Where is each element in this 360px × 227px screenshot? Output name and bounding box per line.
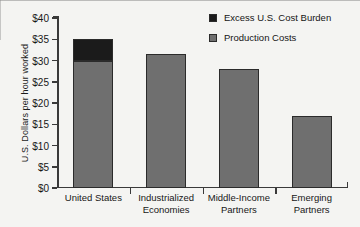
bar-segment[interactable] <box>73 39 113 60</box>
y-axis-tick-label: $20 <box>32 98 49 109</box>
x-axis-category-label: United States <box>57 192 130 204</box>
x-axis-category-label: Middle-IncomePartners <box>203 192 276 215</box>
bar-chart: U.S. Dollars per hour worked $0$5$10$15$… <box>0 0 360 227</box>
x-axis-category-line: Middle-Income <box>203 192 276 204</box>
y-axis-tick-label: $40 <box>32 13 49 24</box>
bar[interactable] <box>73 39 113 188</box>
x-axis-category-label: EmergingPartners <box>275 192 348 215</box>
chart-legend: Excess U.S. Cost BurdenProduction Costs <box>209 12 331 52</box>
x-axis-category-line: Partners <box>203 204 276 216</box>
y-axis-tick-label: $15 <box>32 119 49 130</box>
y-axis-tick-label: $30 <box>32 55 49 66</box>
legend-swatch-icon <box>209 34 217 42</box>
y-axis-tick-label: $5 <box>38 161 49 172</box>
y-axis-tick <box>52 187 57 189</box>
legend-label: Production Costs <box>224 32 296 43</box>
x-axis-category-line: United States <box>57 192 130 204</box>
bar[interactable] <box>146 54 186 188</box>
x-axis-category-line: Partners <box>275 204 348 216</box>
bar[interactable] <box>219 69 259 188</box>
legend-label: Excess U.S. Cost Burden <box>224 12 331 23</box>
legend-swatch-icon <box>209 14 217 22</box>
x-axis-category-line: Industrialized <box>130 192 203 204</box>
y-axis-tick <box>52 124 57 126</box>
y-axis-tick <box>52 60 57 62</box>
y-axis-tick-label: $25 <box>32 76 49 87</box>
legend-item[interactable]: Production Costs <box>209 32 331 43</box>
x-axis-category-line: Economies <box>130 204 203 216</box>
y-axis-tick-label: $35 <box>32 34 49 45</box>
x-axis-category-labels: United StatesIndustrializedEconomiesMidd… <box>57 192 348 226</box>
y-axis-tick <box>52 166 57 168</box>
legend-item[interactable]: Excess U.S. Cost Burden <box>209 12 331 23</box>
scan-edge-top <box>0 0 360 1</box>
bar[interactable] <box>292 116 332 188</box>
y-axis-tick <box>52 145 57 147</box>
bar-segment[interactable] <box>292 116 332 188</box>
x-axis-category-label: IndustrializedEconomies <box>130 192 203 215</box>
y-axis-tick <box>52 102 57 104</box>
bar-segment[interactable] <box>146 54 186 188</box>
bar-segment[interactable] <box>219 69 259 188</box>
y-axis-tick <box>52 81 57 83</box>
x-axis-right-cap <box>347 182 349 188</box>
y-axis-line <box>57 16 59 188</box>
y-axis-tick <box>52 17 57 19</box>
y-axis-tick-label: $10 <box>32 140 49 151</box>
scan-edge-left <box>0 0 1 40</box>
bar-segment[interactable] <box>73 61 113 189</box>
y-axis-tick-label: $0 <box>38 183 49 194</box>
x-axis-category-line: Emerging <box>275 192 348 204</box>
y-axis-tick <box>52 39 57 41</box>
y-axis-title: U.S. Dollars per hour worked <box>20 18 30 188</box>
